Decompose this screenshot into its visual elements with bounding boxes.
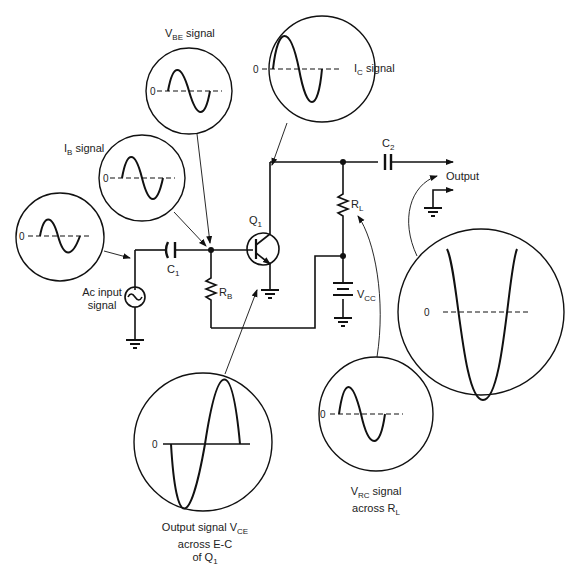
c2-label: C2 (382, 138, 394, 152)
rl-label: RL (351, 199, 363, 213)
scope-ac-input (16, 193, 104, 281)
svg-text:0: 0 (19, 231, 25, 242)
svg-text:0: 0 (424, 307, 430, 318)
output-label: Output (446, 171, 479, 182)
c1-curved-plate (166, 242, 168, 258)
rb-label: RB (219, 287, 232, 301)
svg-text:0: 0 (152, 439, 158, 450)
scope-output (398, 229, 564, 395)
vbe-signal-label: VBE signal (165, 28, 215, 42)
ac-input-label: Ac input signal (80, 286, 124, 312)
svg-text:0: 0 (103, 173, 109, 184)
svg-text:0: 0 (150, 86, 156, 97)
c1-label: C1 (167, 264, 179, 278)
svg-text:0: 0 (253, 64, 259, 75)
vcc-label: VCC (357, 289, 376, 303)
q1-label: Q1 (249, 215, 262, 229)
vce-signal-label: Output signal VCE across E-C of Q1 (160, 521, 250, 568)
transistor-q1-symbol (247, 233, 279, 265)
svg-text:0: 0 (320, 409, 326, 420)
vrc-signal-label: VRC signal across RL (340, 485, 412, 519)
ib-signal-label: IB signal (64, 143, 104, 157)
scope-vrc (319, 357, 433, 471)
ic-signal-label: IC signal (354, 63, 395, 77)
